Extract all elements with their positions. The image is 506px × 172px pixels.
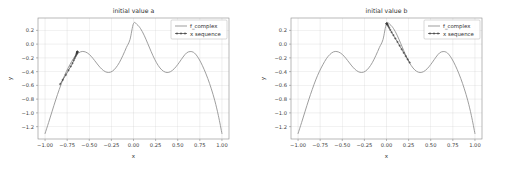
x-tick-label: −0.25 xyxy=(103,142,119,148)
plot-canvas-a: −1.00−0.75−0.50−0.250.000.250.500.751.00… xyxy=(0,0,253,172)
tick-marks xyxy=(289,30,475,141)
y-tick-label: −0.8 xyxy=(21,96,34,102)
y-tick-label: −1.2 xyxy=(21,124,34,130)
x-tick-label: 1.00 xyxy=(469,142,481,148)
x-tick-label: 0.25 xyxy=(150,142,162,148)
x-tick-label: −0.75 xyxy=(59,142,75,148)
y-tick-label: −0.2 xyxy=(21,55,34,61)
y-tick-label: −1.2 xyxy=(274,124,287,130)
y-axis-label: y xyxy=(260,76,267,80)
legend-label-f-complex: f_complex xyxy=(443,23,471,30)
x-tick-label: 0.75 xyxy=(447,142,459,148)
x-tick-label: −1.00 xyxy=(290,142,306,148)
x-tick-label: −0.50 xyxy=(81,142,97,148)
series-x-sequence xyxy=(59,51,79,86)
x-tick-label: −0.50 xyxy=(334,142,350,148)
x-tick-label: 0.50 xyxy=(172,142,184,148)
x-tick-label: −1.00 xyxy=(37,142,53,148)
x-tick-label: 0.00 xyxy=(381,142,393,148)
y-tick-label: −0.2 xyxy=(274,55,287,61)
y-tick-label: 0.0 xyxy=(26,41,34,47)
legend: f_complexx sequence xyxy=(171,20,227,39)
x-axis-label: x xyxy=(385,153,389,159)
x-tick-label: 0.50 xyxy=(425,142,437,148)
tick-labels: −1.00−0.75−0.50−0.250.000.250.500.751.00… xyxy=(274,27,480,148)
legend-label-x-sequence: x sequence xyxy=(190,31,222,38)
x-axis-label: x xyxy=(132,153,136,159)
x-tick-label: 0.25 xyxy=(403,142,415,148)
y-tick-label: −0.8 xyxy=(274,96,287,102)
y-tick-label: −1.0 xyxy=(274,110,287,116)
tick-labels: −1.00−0.75−0.50−0.250.000.250.500.751.00… xyxy=(21,27,227,148)
y-tick-label: 0.2 xyxy=(279,27,287,33)
x-tick-label: −0.75 xyxy=(312,142,328,148)
y-tick-label: −0.6 xyxy=(21,82,34,88)
tick-marks xyxy=(36,30,222,141)
x-tick-label: 0.75 xyxy=(194,142,206,148)
x-tick-label: 1.00 xyxy=(216,142,228,148)
y-tick-label: −0.4 xyxy=(21,69,34,75)
subplot-initial-value-a: −1.00−0.75−0.50−0.250.000.250.500.751.00… xyxy=(0,0,253,172)
matplotlib-figure: −1.00−0.75−0.50−0.250.000.250.500.751.00… xyxy=(0,0,506,172)
y-tick-label: 0.2 xyxy=(26,27,34,33)
y-tick-label: −1.0 xyxy=(21,110,34,116)
y-tick-label: −0.4 xyxy=(274,69,287,75)
panel-title: initial value a xyxy=(113,7,155,14)
legend-label-f-complex: f_complex xyxy=(190,23,218,30)
y-axis-label: y xyxy=(7,76,14,80)
x-tick-label: 0.00 xyxy=(128,142,140,148)
y-tick-label: 0.0 xyxy=(279,41,287,47)
legend-label-x-sequence: x sequence xyxy=(443,31,475,38)
legend: f_complexx sequence xyxy=(424,20,480,39)
y-tick-label: −0.6 xyxy=(274,82,287,88)
panel-title: initial value b xyxy=(366,7,408,14)
plot-canvas-b: −1.00−0.75−0.50−0.250.000.250.500.751.00… xyxy=(253,0,506,172)
subplot-initial-value-b: −1.00−0.75−0.50−0.250.000.250.500.751.00… xyxy=(253,0,506,172)
x-tick-label: −0.25 xyxy=(356,142,372,148)
